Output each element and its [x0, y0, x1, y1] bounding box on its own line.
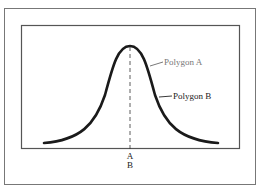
polygon-b-leader	[159, 96, 172, 97]
polygon-a-leader	[150, 62, 163, 66]
axis-mark-b: B	[127, 160, 133, 170]
plot-frame	[22, 26, 240, 149]
diagram-canvas: Polygon A Polygon B A B	[0, 0, 259, 188]
polygon-b-label: Polygon B	[173, 91, 211, 101]
polygon-a-label: Polygon A	[164, 57, 203, 67]
